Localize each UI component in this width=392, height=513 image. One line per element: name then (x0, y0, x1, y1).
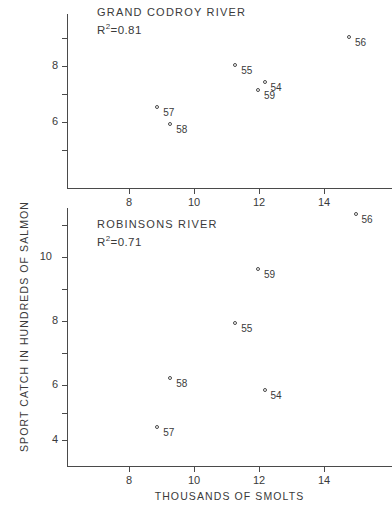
panel-bottom-r-squared: R2=0.71 (97, 234, 142, 248)
bottom-xticklabel-12: 12 (248, 474, 270, 486)
top-ytick-8 (62, 66, 68, 67)
top-xtick-14 (324, 188, 325, 194)
bottom-point-label-59: 59 (264, 269, 275, 280)
bottom-yticklabel-10: 10 (30, 250, 52, 262)
bottom-xticklabel-10: 10 (183, 474, 205, 486)
top-point-label-55: 55 (241, 65, 252, 76)
scatter-figure: SPORT CATCH IN HUNDREDS OF SALMON GRAND … (0, 0, 392, 513)
bottom-ytick-minor-9 (62, 289, 68, 290)
bottom-point-54 (263, 388, 267, 392)
bottom-xtick-8 (129, 466, 130, 472)
top-y-axis-line (67, 14, 68, 189)
top-point-56 (347, 35, 351, 39)
bottom-point-58 (168, 376, 172, 380)
bottom-ytick-6 (62, 385, 68, 386)
top-point-54 (263, 80, 267, 84)
top-point-label-58: 58 (176, 124, 187, 135)
top-xtick-8 (129, 188, 130, 194)
bottom-point-label-58: 58 (176, 378, 187, 389)
panel-top-title: GRAND CODROY RIVER (97, 6, 246, 18)
bottom-point-57 (155, 425, 159, 429)
panel-top-r-squared: R2=0.81 (97, 22, 142, 36)
top-yticklabel-6: 6 (36, 115, 58, 127)
panel-bottom-r2-prefix: R (97, 236, 106, 248)
bottom-yticklabel-4: 4 (36, 433, 58, 445)
top-point-55 (233, 63, 237, 67)
top-point-label-59: 59 (264, 90, 275, 101)
bottom-point-56 (354, 212, 358, 216)
top-point-59 (256, 88, 260, 92)
bottom-ytick-minor-11 (62, 225, 68, 226)
bottom-xtick-12 (259, 466, 260, 472)
bottom-point-55 (233, 321, 237, 325)
bottom-xticklabel-8: 8 (118, 474, 140, 486)
top-ytick-6 (62, 122, 68, 123)
top-point-label-56: 56 (355, 37, 366, 48)
bottom-point-label-55: 55 (241, 323, 252, 334)
top-x-axis-line (67, 188, 392, 189)
bottom-xticklabel-14: 14 (313, 474, 335, 486)
bottom-xtick-14 (324, 466, 325, 472)
bottom-point-label-56: 56 (362, 214, 373, 225)
top-xtick-10 (194, 188, 195, 194)
top-point-label-57: 57 (163, 107, 174, 118)
top-xtick-12 (259, 188, 260, 194)
bottom-yticklabel-6: 6 (36, 378, 58, 390)
bottom-ytick-4 (62, 440, 68, 441)
bottom-yticklabel-8: 8 (36, 314, 58, 326)
panel-robinsons: ROBINSONS RIVER R2=0.71 10 8 6 4 8 10 12… (0, 200, 392, 490)
panel-top-r2-value: =0.81 (111, 24, 142, 36)
x-axis-title: THOUSANDS OF SMOLTS (67, 490, 392, 502)
top-yticklabel-8: 8 (36, 59, 58, 71)
bottom-point-59 (256, 267, 260, 271)
bottom-ytick-10 (62, 257, 68, 258)
bottom-point-label-57: 57 (163, 427, 174, 438)
top-ytick-minor-5 (62, 150, 68, 151)
panel-bottom-r2-value: =0.71 (111, 236, 142, 248)
bottom-x-axis-line (67, 466, 392, 467)
bottom-xtick-10 (194, 466, 195, 472)
top-point-57 (155, 105, 159, 109)
bottom-point-label-54: 54 (271, 390, 282, 401)
panel-grand-codroy: GRAND CODROY RIVER R2=0.81 8 6 8 10 12 1… (0, 0, 392, 200)
panel-top-r2-prefix: R (97, 24, 106, 36)
bottom-ytick-minor-7 (62, 353, 68, 354)
top-ytick-minor-7 (62, 94, 68, 95)
bottom-ytick-minor-5 (62, 413, 68, 414)
top-ytick-minor-9 (62, 38, 68, 39)
bottom-ytick-8 (62, 321, 68, 322)
bottom-y-axis-line (67, 208, 68, 467)
panel-bottom-title: ROBINSONS RIVER (97, 218, 218, 230)
top-point-58 (168, 122, 172, 126)
